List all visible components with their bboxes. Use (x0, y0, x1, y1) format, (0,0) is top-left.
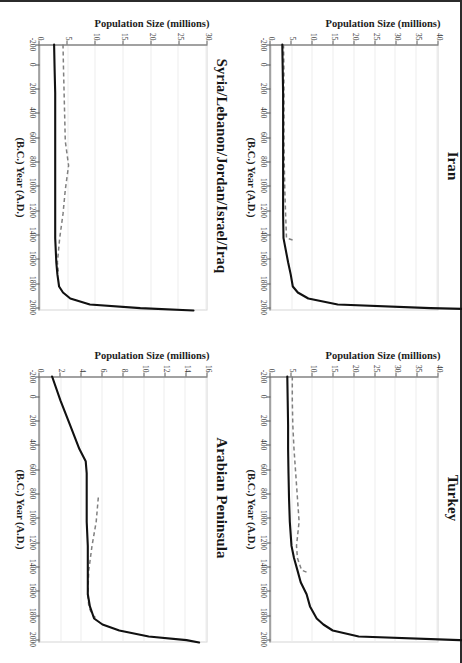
y-axis-title: Population Size (millions) (308, 18, 458, 29)
dashed-gray-line (57, 44, 68, 274)
chart-panel-iran: Iran 0 (231, 0, 462, 331)
solid-black-line (52, 376, 199, 642)
chart-title: Syria/Lebanon/Jordan/Israel/Iraq (212, 0, 229, 331)
series-lines (270, 376, 438, 642)
chart-panel-arabian-peninsula: Arabian Peninsula (0, 332, 231, 663)
dashed-gray-line (283, 44, 294, 240)
chart-panel-turkey: Turkey 0 (231, 332, 462, 663)
chart-panel-syria: Syria/Lebanon/Jordan/Israel/Iraq (0, 0, 231, 331)
dashed-gray-line (292, 376, 307, 572)
chart-title: Arabian Peninsula (212, 332, 229, 663)
x-axis-title: (B.C.) Year (A.D.) (14, 376, 25, 642)
rotated-chart-body: Arabian Peninsula (0, 332, 231, 663)
chart-title: Iran (443, 0, 460, 331)
rotated-chart-body: Turkey 0 (231, 332, 462, 663)
rotated-chart-body: Iran 0 (231, 0, 462, 331)
rotated-chart-body: Syria/Lebanon/Jordan/Israel/Iraq (0, 0, 231, 331)
y-axis-title: Population Size (millions) (77, 18, 227, 29)
y-axis-title: Population Size (millions) (308, 350, 458, 361)
x-axis-title: (B.C.) Year (A.D.) (245, 376, 256, 642)
y-axis-title: Population Size (millions) (77, 350, 227, 361)
solid-black-line (287, 376, 462, 642)
series-lines (270, 44, 438, 310)
chart-title: Turkey (443, 332, 460, 663)
x-axis-title: (B.C.) Year (A.D.) (245, 44, 256, 310)
chart-grid: Syria/Lebanon/Jordan/Israel/Iraq (0, 0, 462, 663)
solid-black-line (54, 44, 193, 310)
series-lines (39, 44, 207, 310)
solid-black-line (282, 44, 462, 310)
series-lines (39, 376, 207, 642)
figure-page: Syria/Lebanon/Jordan/Israel/Iraq (0, 0, 462, 663)
x-axis-title: (B.C.) Year (A.D.) (14, 44, 25, 310)
